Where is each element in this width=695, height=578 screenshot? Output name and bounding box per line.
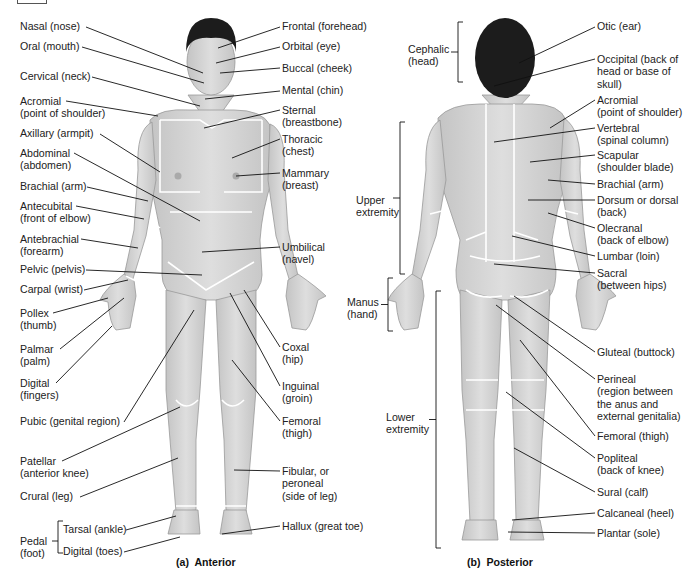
thoracic-leader-line <box>232 139 280 158</box>
label-palmar: Palmar (palm) <box>20 343 54 368</box>
sacral-leader-line <box>494 264 595 273</box>
gluteal-leader-line <box>514 296 595 352</box>
oral-leader-line <box>82 47 204 83</box>
hallux-leader-line <box>222 526 280 534</box>
label-lumbar: Lumbar (loin) <box>597 250 659 262</box>
label-axillary: Axillary (armpit) <box>20 127 94 139</box>
label-cervical: Cervical (neck) <box>20 70 91 82</box>
label-acromial: Acromial (point of shoulder) <box>20 95 105 120</box>
olecranal-leader-line <box>548 213 595 228</box>
label-pedal: Pedal (foot) <box>20 535 47 560</box>
crural-leader-line <box>80 458 178 497</box>
acromial-post-leader-line <box>550 100 595 128</box>
label-cephalic: Cephalic (head) <box>408 43 449 68</box>
axillary-leader-line <box>100 134 160 172</box>
lumbar-leader-line <box>512 236 595 256</box>
pelvic-leader-line <box>86 270 202 275</box>
label-occipital: Occipital (back of head or base of skull… <box>597 53 678 90</box>
label-sternal: Sternal (breastbone) <box>282 104 342 129</box>
label-femoral: Femoral (thigh) <box>282 415 321 440</box>
pedal-bracket <box>52 521 63 553</box>
label-inguinal: Inguinal (groin) <box>282 380 319 405</box>
posterior-caption: (b) Posterior <box>467 556 533 568</box>
label-otic: Otic (ear) <box>597 20 641 32</box>
brachial-leader-line <box>87 187 148 201</box>
label-plantar: Plantar (sole) <box>597 527 660 539</box>
label-brachial-post: Brachial (arm) <box>597 178 664 190</box>
mammary-leader-line <box>236 173 280 176</box>
label-manus: Manus (hand) <box>347 296 379 321</box>
label-oral: Oral (mouth) <box>20 40 79 52</box>
label-pelvic: Pelvic (pelvis) <box>20 263 85 275</box>
label-tarsal: Tarsal (ankle) <box>63 523 127 535</box>
umbilical-leader-line <box>202 247 280 252</box>
palmar-leader-line <box>60 298 124 349</box>
label-dorsum: Dorsum or dorsal (back) <box>597 194 678 219</box>
popliteal-leader-line <box>506 392 595 458</box>
tarsal-leader-line <box>126 516 176 530</box>
nasal-leader-line <box>86 27 203 73</box>
coxal-leader-line <box>244 290 280 347</box>
plantar-leader-line <box>508 532 595 533</box>
label-femoral-post: Femoral (thigh) <box>597 430 669 442</box>
femoral-leader-line <box>232 360 280 421</box>
label-crural: Crural (leg) <box>20 490 73 502</box>
fibular-leader-line <box>234 470 280 471</box>
pubic-leader-line <box>124 310 194 422</box>
label-scapular: Scapular (shoulder blade) <box>597 149 674 174</box>
cervical-leader-line <box>92 77 200 106</box>
label-sacral: Sacral (between hips) <box>597 267 667 292</box>
manus-bracket <box>381 278 393 331</box>
label-lower-extremity: Lower extremity <box>386 411 429 436</box>
abdominal-leader-line <box>74 153 200 221</box>
label-thoracic: Thoracic (chest) <box>282 133 323 158</box>
label-pollex: Pollex (thumb) <box>20 307 57 332</box>
label-perineal: Perineal (region between the anus and ex… <box>597 373 681 423</box>
pollex-leader-line <box>53 298 108 313</box>
lower-extremity-bracket <box>429 291 441 548</box>
label-fibular: Fibular, or peroneal (side of leg) <box>282 465 337 502</box>
label-gluteal: Gluteal (buttock) <box>597 346 675 358</box>
label-hallux: Hallux (great toe) <box>282 520 363 532</box>
label-coxal: Coxal (hip) <box>282 341 309 366</box>
label-buccal: Buccal (cheek) <box>282 62 352 74</box>
mental-leader-line <box>205 91 280 99</box>
label-digital-fingers: Digital (fingers) <box>20 377 59 402</box>
anterior-caption: (a) Anterior <box>176 556 236 568</box>
label-antebrachial: Antebrachial (forearm) <box>20 233 79 258</box>
femoral-post-leader-line <box>520 340 595 436</box>
antebrachial-leader-line <box>81 239 138 248</box>
digital-toes-leader-line <box>124 537 180 552</box>
label-sural: Sural (calf) <box>597 486 648 498</box>
label-patellar: Patellar (anterior knee) <box>20 455 89 480</box>
label-abdominal: Abdominal (abdomen) <box>20 147 71 172</box>
label-vertebral: Vertebral (spinal column) <box>597 122 669 147</box>
sternal-leader-line <box>204 110 280 128</box>
label-frontal: Frontal (forehead) <box>282 20 367 32</box>
occipital-leader-line <box>494 59 595 86</box>
label-carpal: Carpal (wrist) <box>20 283 83 295</box>
label-pubic: Pubic (genital region) <box>20 415 120 427</box>
vertebral-leader-line <box>494 128 595 142</box>
scapular-leader-line <box>530 155 595 162</box>
label-popliteal: Popliteal (back of knee) <box>597 452 664 477</box>
orbital-leader-line <box>216 47 280 63</box>
digital-fingers-leader-line <box>56 326 112 383</box>
label-nasal: Nasal (nose) <box>20 20 80 32</box>
label-calcaneal: Calcaneal (heel) <box>597 507 674 519</box>
label-antecubital: Antecubital (front of elbow) <box>20 200 91 225</box>
label-olecranal: Olecranal (back of elbow) <box>597 222 669 247</box>
label-acromial-post: Acromial (point of shoulder) <box>597 94 682 119</box>
buccal-leader-line <box>220 68 280 73</box>
label-digital-toes: Digital (toes) <box>63 545 122 557</box>
body-regions-figure: Nasal (nose)Oral (mouth)Cervical (neck)A… <box>0 0 695 578</box>
brachial-post-leader-line <box>548 180 595 184</box>
otic-leader-line <box>519 27 595 63</box>
label-upper-extremity: Upper extremity <box>356 194 399 219</box>
cephalic-bracket <box>451 22 463 82</box>
label-umbilical: Umbilical (navel) <box>282 241 325 266</box>
calcaneal-leader-line <box>512 513 595 520</box>
label-orbital: Orbital (eye) <box>282 40 340 52</box>
frontal-leader-line <box>218 27 280 48</box>
label-mental: Mental (chin) <box>282 84 343 96</box>
